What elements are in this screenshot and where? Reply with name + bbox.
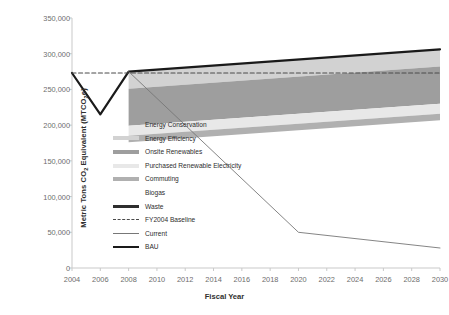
legend-item[interactable]: Energy Efficiency <box>113 132 241 146</box>
chart-legend: Energy ConservationEnergy EfficiencyOnsi… <box>113 118 241 254</box>
legend-swatch-icon <box>113 219 139 220</box>
x-axis-tick-label: 2012 <box>177 275 193 284</box>
x-axis-tick-label: 2006 <box>92 275 108 284</box>
y-axis-tick-label: 250,000 <box>43 85 70 94</box>
y-axis-tick-label: 200,000 <box>43 121 70 130</box>
chart-container: Metric Tons CO2 Equivalent (MTCO2e) 050,… <box>0 0 449 315</box>
legend-item[interactable]: FY2004 Baseline <box>113 213 241 227</box>
legend-swatch-icon <box>113 177 139 181</box>
legend-item-label: BAU <box>145 240 159 254</box>
x-axis-title: Fiscal Year <box>0 292 449 301</box>
legend-item[interactable]: Commuting <box>113 172 241 186</box>
y-axis-tick-label: 300,000 <box>43 49 70 58</box>
x-axis-tick-label: 2014 <box>205 275 221 284</box>
legend-item-label: Onsite Renewables <box>145 145 202 159</box>
y-axis-tick-label: 150,000 <box>43 156 70 165</box>
x-axis-tick-label: 2030 <box>432 275 448 284</box>
legend-swatch-icon <box>113 164 139 168</box>
legend-item[interactable]: BAU <box>113 240 241 254</box>
legend-item[interactable]: Purchased Renewable Electricity <box>113 159 241 173</box>
legend-item-label: Purchased Renewable Electricity <box>145 159 241 173</box>
legend-item[interactable]: Current <box>113 227 241 241</box>
legend-item-label: Biogas <box>145 186 165 200</box>
legend-swatch-icon <box>113 246 139 248</box>
x-axis-tick-label: 2026 <box>375 275 391 284</box>
legend-item-label: Commuting <box>145 172 179 186</box>
legend-swatch-icon <box>113 150 139 154</box>
legend-item[interactable]: Energy Conservation <box>113 118 241 132</box>
y-axis-title-mid: Equivalent (MTCO <box>79 98 88 167</box>
y-axis-tick-label: 100,000 <box>43 192 70 201</box>
x-axis-tick-label: 2020 <box>290 275 306 284</box>
legend-swatch-icon <box>113 205 139 208</box>
legend-item[interactable]: Waste <box>113 200 241 214</box>
y-axis-title: Metric Tons CO2 Equivalent (MTCO2e) <box>79 88 88 228</box>
y-axis-title-sub1: 2 <box>83 167 89 170</box>
legend-item-label: Energy Efficiency <box>145 132 196 146</box>
y-axis-title-pre: Metric Tons CO <box>79 170 88 227</box>
x-axis-tick-label: 2018 <box>262 275 278 284</box>
legend-item-label: Energy Conservation <box>145 118 207 132</box>
legend-item-label: FY2004 Baseline <box>145 213 195 227</box>
legend-item-label: Current <box>145 227 167 241</box>
x-axis-tick-label: 2010 <box>149 275 165 284</box>
legend-swatch-icon <box>113 123 139 127</box>
x-axis-tick-label: 2004 <box>64 275 80 284</box>
legend-swatch-icon <box>113 136 139 140</box>
y-axis-title-post: e) <box>79 88 88 95</box>
legend-item[interactable]: Biogas <box>113 186 241 200</box>
legend-swatch-icon <box>113 191 139 195</box>
legend-item[interactable]: Onsite Renewables <box>113 145 241 159</box>
legend-item-label: Waste <box>145 200 163 214</box>
y-axis-tick-label: 50,000 <box>47 228 70 237</box>
x-axis-tick-label: 2028 <box>403 275 419 284</box>
legend-swatch-icon <box>113 233 139 234</box>
y-axis-title-sub2: 2 <box>83 95 89 98</box>
x-axis-tick-label: 2016 <box>234 275 250 284</box>
y-axis-tick-label: 0 <box>66 264 70 273</box>
x-axis-tick-label: 2008 <box>120 275 136 284</box>
x-axis-tick-label: 2024 <box>347 275 363 284</box>
y-axis-tick-labels: 050,000100,000150,000200,000250,000300,0… <box>26 0 70 315</box>
x-axis-tick-label: 2022 <box>319 275 335 284</box>
y-axis-tick-label: 350,000 <box>43 14 70 23</box>
